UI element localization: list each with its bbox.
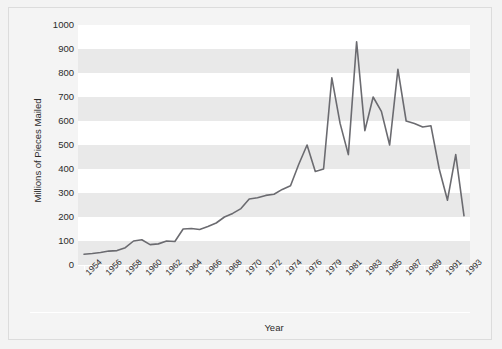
y-axis-title: Millions of Pieces Mailed: [32, 51, 43, 251]
plot-area: [78, 25, 470, 265]
x-axis-tick-labels: 1954195619581960196219641966196819701972…: [78, 271, 470, 311]
y-axis-tick-labels: 01002003004005006007008009001000: [22, 25, 74, 265]
bottom-rule: [30, 312, 470, 313]
series-line-chart: [78, 25, 470, 265]
y-axis-tick-label: 1000: [28, 20, 74, 30]
y-axis-tick-label: 0: [28, 260, 74, 270]
x-axis-title: Year: [78, 322, 470, 333]
chart-figure: 01002003004005006007008009001000 Million…: [0, 0, 502, 349]
series-polyline: [84, 42, 464, 254]
